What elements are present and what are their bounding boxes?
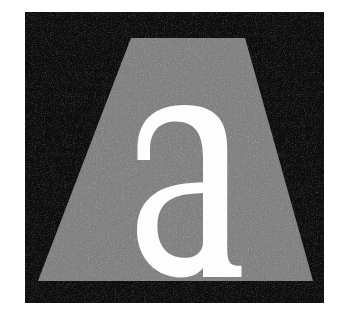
artwork-svg: Letter A Graphic Black square containing… [0, 0, 347, 320]
artwork-canvas: Letter A Graphic Black square containing… [0, 0, 347, 320]
